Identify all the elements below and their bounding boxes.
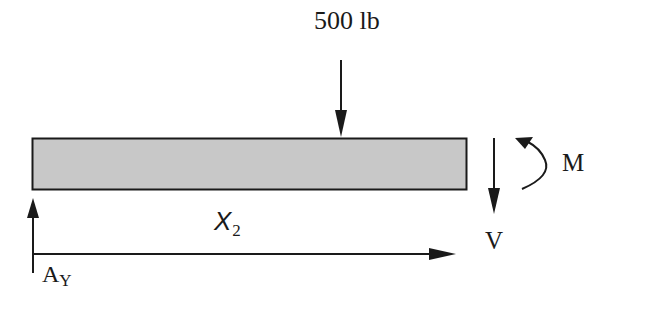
reaction-subscript: Y	[59, 271, 71, 290]
reaction-arrow-icon	[27, 198, 39, 273]
load-label: 500 lb	[314, 8, 380, 34]
diagram-graphics	[0, 0, 646, 316]
moment-arrow-icon	[515, 137, 546, 189]
shear-arrow-icon	[488, 138, 500, 214]
load-arrow-icon	[335, 60, 347, 137]
free-body-diagram: 500 lb M V X2 AY	[0, 0, 646, 316]
shear-label: V	[485, 228, 503, 253]
beam	[33, 139, 467, 190]
position-subscript: 2	[232, 221, 241, 240]
position-dimension-arrow-icon	[34, 248, 456, 260]
moment-label: M	[562, 150, 584, 175]
reaction-symbol: A	[42, 261, 59, 287]
position-label: X2	[214, 208, 241, 234]
reaction-label: AY	[42, 262, 72, 286]
position-symbol: X	[214, 206, 231, 236]
